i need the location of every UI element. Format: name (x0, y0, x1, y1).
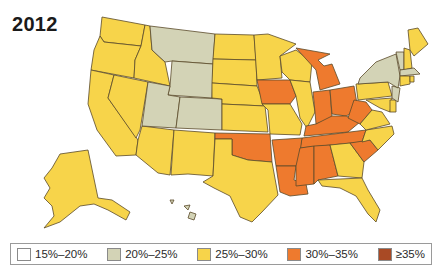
us-map (0, 0, 438, 243)
legend-swatch (107, 248, 121, 261)
legend-item-15-20: 15%–20% (17, 248, 87, 261)
state-hawaii (170, 200, 196, 220)
state-colorado (176, 97, 222, 130)
legend-swatch (17, 248, 31, 261)
state-rhodeisland (410, 76, 414, 82)
state-pennsylvania (356, 82, 392, 100)
legend-label: 25%–30% (215, 248, 267, 260)
legend-label: ≥35% (396, 248, 425, 260)
state-wyoming (168, 61, 213, 98)
legend-label: 30%–35% (305, 248, 357, 260)
state-iowa (257, 80, 296, 104)
state-southdakota (212, 59, 257, 86)
legend-item-20-25: 20%–25% (107, 248, 177, 261)
state-arizona (136, 126, 174, 175)
state-maine (408, 28, 428, 56)
state-florida (318, 178, 380, 222)
legend-swatch (378, 248, 392, 261)
state-newmexico (171, 130, 215, 176)
legend-item-25-30: 25%–30% (197, 248, 267, 261)
legend: 15%–20% 20%–25% 25%–30% 30%–35% ≥35% (10, 243, 432, 265)
legend-swatch (197, 248, 211, 261)
legend-label: 20%–25% (125, 248, 177, 260)
state-kansas (222, 104, 268, 132)
state-newyork (358, 54, 400, 88)
state-alaska (44, 150, 130, 228)
state-connecticut (400, 76, 410, 86)
state-washington (100, 17, 145, 46)
legend-swatch (287, 248, 301, 261)
legend-label: 15%–20% (35, 248, 87, 260)
state-massachusetts (400, 68, 420, 76)
state-delaware (390, 100, 396, 112)
legend-item-30-35: 30%–35% (287, 248, 357, 261)
legend-item-35-plus: ≥35% (378, 248, 425, 261)
state-northdakota (213, 34, 256, 60)
